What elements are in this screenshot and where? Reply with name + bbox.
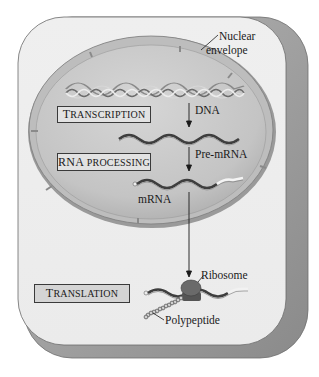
transcription-box: TRANSCRIPTION [57, 106, 151, 123]
cell-illustration [0, 0, 319, 377]
ribosome-label: Ribosome [201, 269, 248, 281]
rna-processing-box: RNA PROCESSING [57, 153, 151, 171]
translation-box: TRANSLATION [34, 284, 130, 303]
transcription-box-rest: RANSCRIPTION [70, 109, 145, 120]
translation-box-rest: RANSLATION [53, 288, 118, 299]
nuclear-envelope-label-line1: Nuclear [219, 30, 255, 42]
translation-box-initial: T [46, 286, 54, 301]
rna-processing-box-initial: RNA [58, 155, 84, 170]
transcription-box-initial: T [63, 107, 71, 122]
ribosome [181, 280, 201, 301]
gene-expression-diagram: Nuclear envelope DNA Pre-mRNA mRNA Ribos… [0, 0, 319, 377]
dna-label: DNA [195, 104, 220, 116]
nuclear-envelope-label-line2: envelope [206, 44, 248, 56]
polypeptide-label: Polypeptide [165, 314, 220, 326]
mrna-label: mRNA [138, 193, 171, 205]
pre-mrna-label: Pre-mRNA [195, 148, 247, 160]
rna-processing-box-rest: PROCESSING [84, 157, 150, 168]
